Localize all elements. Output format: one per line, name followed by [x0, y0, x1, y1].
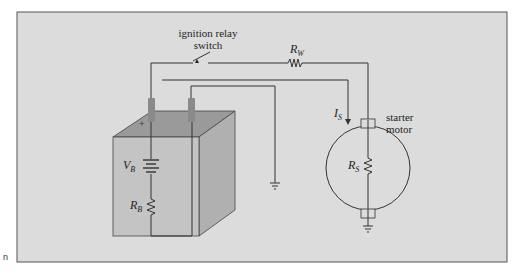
- motor-label-line2: motor: [386, 124, 413, 135]
- figure-frame: [17, 12, 507, 262]
- negative-terminal: [188, 98, 195, 122]
- rb-label: RB: [130, 200, 142, 215]
- margin-mark: n: [3, 252, 8, 262]
- is-label: IS: [334, 108, 342, 123]
- starter-circuit-diagram: ignition relay switch RW IS starter moto…: [0, 0, 514, 275]
- vb-label: VB: [123, 160, 135, 175]
- motor-label: starter motor: [386, 112, 413, 135]
- plus-sign: +: [139, 118, 145, 129]
- diagram-canvas: [0, 0, 514, 275]
- rs-label: RS: [348, 160, 359, 175]
- motor-label-line1: starter: [386, 112, 413, 123]
- switch-label: ignition relay switch: [168, 28, 248, 51]
- positive-terminal: [148, 98, 155, 122]
- rw-label: RW: [290, 44, 304, 59]
- switch-label-line1: ignition relay: [168, 28, 248, 39]
- battery-front-face: [113, 137, 199, 236]
- switch-label-line2: switch: [168, 40, 248, 51]
